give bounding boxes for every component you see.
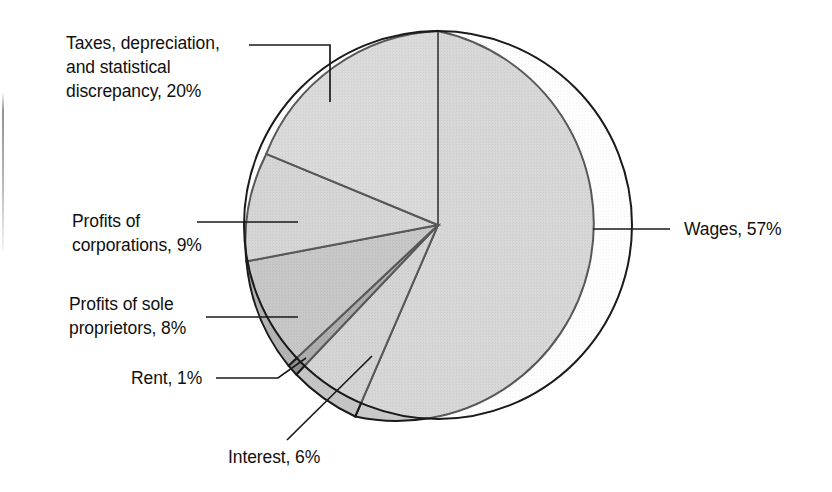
pie-label-rent: Rent, 1% (131, 366, 202, 390)
pie-label-taxes: Taxes, depreciation, and statistical dis… (66, 31, 220, 103)
pie-label-sole-proprietors: Profits of sole proprietors, 8% (69, 292, 186, 340)
pie-label-wages: Wages, 57% (684, 217, 782, 241)
pie-label-interest: Interest, 6% (228, 445, 320, 469)
pie-label-corporations: Profits of corporations, 9% (72, 209, 202, 257)
pie-chart-figure: Taxes, depreciation, and statistical dis… (0, 0, 832, 492)
